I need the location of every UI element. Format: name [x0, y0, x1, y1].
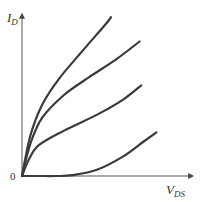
series-line-4: [22, 132, 156, 176]
series-line-3: [22, 85, 141, 176]
x-axis-label: VDS: [166, 182, 185, 199]
series-line-1: [22, 17, 111, 176]
origin-label: 0: [10, 170, 16, 182]
chart: ID VDS 0: [0, 0, 202, 202]
x-axis-label-subscript: DS: [173, 189, 185, 199]
y-axis-label-subscript: D: [10, 17, 18, 27]
y-axis-label: ID: [6, 10, 18, 27]
curves-group: [22, 17, 156, 176]
